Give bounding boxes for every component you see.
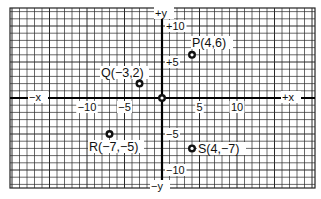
- x-tick-label: 5: [196, 101, 202, 113]
- y-negative-label: −y: [151, 180, 163, 192]
- x-tick-label: 10: [231, 101, 243, 113]
- coordinate-plane-figure: −10−5510+10+5−5−10 −x +x +y −y P(4,6)Q(−…: [0, 0, 321, 199]
- point-label: S(4,−7): [198, 142, 239, 156]
- x-negative-label: −x: [29, 91, 41, 103]
- point-label: R(−7,−5): [89, 140, 138, 154]
- point-label: P(4,6): [192, 36, 226, 50]
- x-tick-label: −5: [118, 101, 131, 113]
- point-o: [158, 94, 166, 102]
- x-tick-label: −10: [78, 101, 97, 113]
- y-tick-label: +5: [166, 56, 179, 68]
- point-label: Q(−3,2): [101, 66, 144, 80]
- y-tick-label: +10: [166, 20, 185, 32]
- y-positive-label: +y: [155, 7, 167, 19]
- y-tick-label: −10: [166, 164, 185, 176]
- x-positive-label: +x: [282, 91, 294, 103]
- y-tick-label: −5: [166, 128, 179, 140]
